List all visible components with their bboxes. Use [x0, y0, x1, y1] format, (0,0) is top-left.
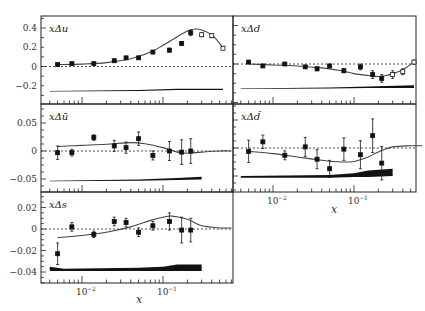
figure-canvas: −0.200.20.4xΔuxΔd−0.0500.05xΔūxΔd̄10−210… — [0, 0, 425, 311]
x-tick-label: 10 — [76, 287, 88, 297]
data-point — [358, 153, 362, 157]
data-point — [167, 48, 171, 52]
data-point — [247, 149, 251, 153]
x-tick-label: 10 — [348, 196, 360, 206]
panel-middle-left: −0.0500.05xΔū — [9, 104, 233, 192]
y-tick-label: −0.2 — [15, 81, 37, 91]
data-point — [180, 150, 184, 154]
data-point-open — [210, 34, 214, 38]
data-point — [283, 62, 287, 66]
data-point — [303, 145, 307, 149]
data-point — [380, 161, 384, 165]
data-point — [56, 252, 60, 256]
y-tick-label: 0.02 — [17, 203, 37, 213]
systematic-band — [50, 89, 223, 92]
data-point — [112, 144, 116, 148]
panel-title: xΔū — [49, 111, 68, 122]
systematic-band — [241, 85, 414, 89]
y-tick-label: −0.05 — [9, 174, 37, 184]
data-point — [151, 224, 155, 228]
data-point — [261, 140, 265, 144]
data-point — [151, 153, 155, 157]
y-tick-label: −0.04 — [9, 267, 37, 277]
x-tick-label: 10 — [267, 196, 279, 206]
data-point — [112, 59, 116, 63]
panel-title: xΔu — [49, 23, 68, 34]
data-point — [70, 151, 74, 155]
x-tick-exponent: −2 — [87, 285, 96, 292]
data-point — [124, 146, 128, 150]
x-tick-label: 10 — [157, 287, 169, 297]
data-point — [358, 65, 362, 69]
panel-title: xΔd̄ — [241, 111, 262, 122]
data-point — [137, 230, 141, 234]
panel-top-left: −0.200.20.4xΔu — [15, 16, 233, 104]
data-point — [342, 147, 346, 151]
data-point — [342, 69, 346, 73]
data-point — [124, 56, 128, 60]
data-point — [137, 137, 141, 141]
data-point — [92, 136, 96, 140]
data-point — [112, 219, 116, 223]
x-tick-exponent: −2 — [278, 194, 287, 201]
x-axis-label-bottom: x — [136, 293, 142, 306]
data-point — [151, 50, 155, 54]
data-point — [167, 219, 171, 223]
data-point — [56, 151, 60, 155]
data-point — [92, 232, 96, 236]
y-tick-label: 0 — [31, 62, 37, 72]
data-point — [315, 157, 319, 161]
data-point — [380, 76, 384, 80]
panel-title: xΔs — [49, 199, 67, 210]
data-point — [189, 149, 193, 153]
data-point — [328, 167, 332, 171]
y-tick-label: 0.05 — [17, 118, 37, 128]
data-point — [315, 67, 319, 71]
data-point — [180, 41, 184, 45]
panel-bottom-left: −0.04−0.0200.02xΔs10−210−1 — [9, 192, 233, 297]
data-point-open — [391, 73, 395, 77]
data-point-open — [221, 46, 225, 50]
panel-frame — [233, 16, 416, 104]
data-point-open — [412, 60, 416, 64]
y-tick-label: 0 — [31, 146, 37, 156]
y-tick-label: 0.4 — [23, 23, 38, 33]
panel-frame — [41, 104, 233, 192]
data-point — [328, 64, 332, 68]
data-point — [283, 153, 287, 157]
y-tick-label: 0 — [31, 224, 37, 234]
systematic-band — [241, 169, 393, 178]
data-point — [189, 31, 193, 35]
data-point-open — [401, 70, 405, 74]
data-point-open — [200, 33, 204, 37]
panel-title: xΔd — [241, 23, 260, 34]
y-tick-label: −0.02 — [9, 246, 37, 256]
data-point — [167, 149, 171, 153]
data-point — [137, 56, 141, 60]
x-tick-exponent: −1 — [168, 285, 177, 292]
data-point — [56, 63, 60, 67]
systematic-band — [50, 264, 202, 270]
data-point — [92, 62, 96, 66]
systematic-band — [50, 177, 202, 181]
data-point — [180, 228, 184, 232]
data-point — [371, 134, 375, 138]
data-point — [189, 228, 193, 232]
data-point — [261, 64, 265, 68]
data-point — [371, 73, 375, 77]
data-point — [247, 60, 251, 64]
panel-middle-right: xΔd̄10−210−1 — [233, 104, 422, 206]
panel-top-right: xΔd — [233, 16, 416, 104]
data-point — [124, 221, 128, 225]
fit-curve — [58, 216, 232, 238]
fit-curve — [58, 143, 232, 154]
data-point — [303, 65, 307, 69]
x-axis-label: x — [331, 203, 337, 216]
data-point — [70, 62, 74, 66]
x-tick-exponent: −1 — [359, 194, 368, 201]
y-tick-label: 0.2 — [23, 42, 37, 52]
data-point — [70, 225, 74, 229]
